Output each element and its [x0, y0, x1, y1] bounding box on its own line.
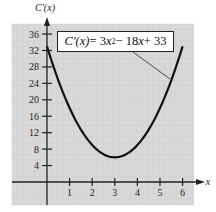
x-tick-label: 4 — [135, 187, 140, 198]
y-tick-label: 32 — [29, 45, 39, 56]
y-tick-label: 36 — [29, 29, 39, 40]
x-tick-label: 5 — [158, 187, 163, 198]
y-tick-label: 12 — [29, 127, 39, 138]
y-axis-arrow-icon — [44, 17, 50, 26]
y-tick-label: 16 — [29, 111, 39, 122]
equation-label: C′(x) = 3 x 2 − 18 x + 33 — [57, 31, 174, 52]
x-tick-label: 3 — [112, 187, 117, 198]
equation-const: + 33 — [144, 34, 167, 49]
x-axis-arrow-icon — [196, 179, 205, 185]
y-tick-label: 20 — [29, 94, 39, 105]
x-tick-label: 6 — [180, 187, 185, 198]
equation-lhs: C′(x) — [65, 34, 90, 49]
x-tick-label: 1 — [67, 187, 72, 198]
y-axis-label: C′(x) — [35, 2, 56, 14]
equation-term: − 18 — [116, 34, 139, 49]
x-axis-label: x — [205, 176, 211, 187]
y-tick-label: 24 — [29, 78, 39, 89]
equation-coef: = 3 — [90, 34, 106, 49]
y-tick-label: 28 — [29, 61, 39, 72]
y-tick-label: 8 — [34, 144, 39, 155]
y-tick-label: 4 — [34, 160, 39, 171]
x-tick-label: 2 — [90, 187, 95, 198]
